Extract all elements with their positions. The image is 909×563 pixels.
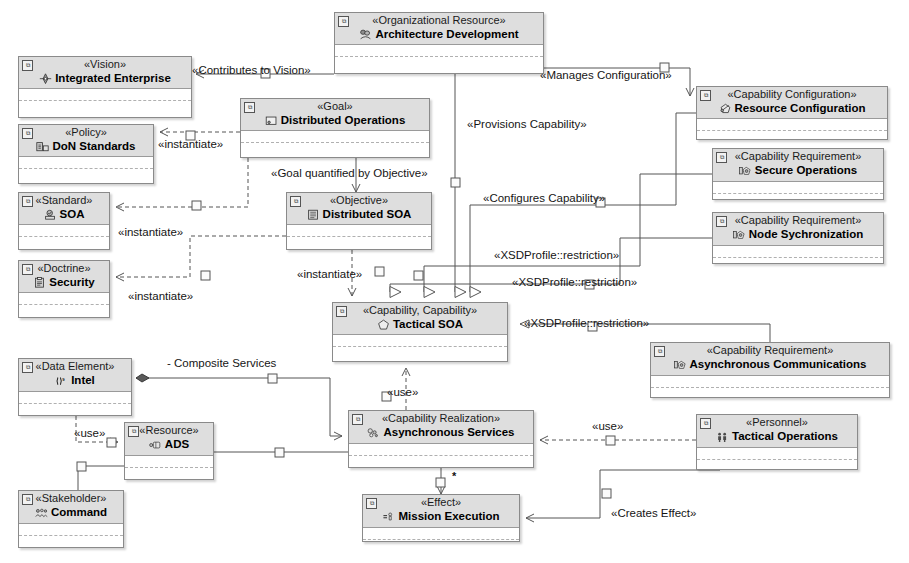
node-stereotype: «Capability, Capability» bbox=[337, 305, 503, 317]
node-name: Asynchronous Services bbox=[353, 426, 529, 440]
node-attributes-compartment bbox=[19, 89, 191, 101]
node-name-text: Asynchronous Services bbox=[383, 426, 514, 438]
uml-node-tactical[interactable]: ⧉«Capability, Capability»Tactical SOA bbox=[332, 302, 508, 362]
node-name-text: Tactical Operations bbox=[732, 430, 838, 442]
node-operations-compartment bbox=[697, 131, 887, 142]
node-header: «Capability, Capability»Tactical SOA bbox=[333, 303, 507, 335]
edge-label-l_use_intel: «use» bbox=[74, 428, 105, 440]
node-name: Secure Operations bbox=[717, 164, 879, 178]
edge-label-l_xsd2: «XSDProfile::restriction» bbox=[512, 277, 637, 289]
uml-node-async_svc[interactable]: ⧉«Capability Realization»Asynchronous Se… bbox=[348, 410, 534, 468]
node-name: DoN Standards bbox=[23, 140, 149, 153]
node-name-text: Security bbox=[49, 276, 94, 288]
node-name: Distributed Operations bbox=[245, 114, 425, 127]
edge-label-l_provisions: «Provisions Capability» bbox=[467, 119, 587, 131]
uml-node-ads[interactable]: ⧉«Resource»ADS bbox=[124, 422, 214, 480]
policy-icon bbox=[36, 141, 49, 153]
node-attributes-compartment bbox=[241, 131, 429, 143]
edge-label-l_contributes: «Contributes to Vision» bbox=[192, 65, 311, 77]
node-name-text: Command bbox=[51, 506, 107, 518]
node-name-text: Secure Operations bbox=[755, 164, 857, 176]
node-stereotype: «Standard» bbox=[23, 195, 105, 207]
node-stereotype: «Objective» bbox=[291, 195, 427, 207]
node-name: Resource Configuration bbox=[701, 102, 883, 115]
uml-node-tac_ops[interactable]: ⧉«Personnel»Tactical Operations bbox=[696, 414, 858, 470]
node-stereotype: «Resource» bbox=[129, 425, 209, 437]
capability-config-icon bbox=[719, 103, 732, 115]
doctrine-icon bbox=[33, 277, 46, 289]
node-stereotype: «Capability Configuration» bbox=[701, 89, 883, 101]
element-badge-icon: ⧉ bbox=[22, 60, 33, 71]
node-header: «Organizational Resource»Architecture De… bbox=[335, 13, 543, 45]
node-name: SOA bbox=[23, 208, 105, 221]
uml-node-standard[interactable]: ⧉«Standard»SOA bbox=[18, 192, 110, 250]
element-badge-icon: ⧉ bbox=[22, 264, 33, 275]
node-stereotype: «Policy» bbox=[23, 127, 149, 139]
node-attributes-compartment bbox=[19, 293, 109, 305]
node-attributes-compartment bbox=[125, 456, 213, 468]
vision-icon bbox=[39, 73, 52, 85]
node-name: Security bbox=[23, 276, 105, 289]
node-name: 9Intel bbox=[23, 374, 127, 388]
uml-node-goal[interactable]: ⧉«Goal»Distributed Operations bbox=[240, 98, 430, 158]
node-attributes-compartment bbox=[651, 376, 889, 388]
node-name-text: Mission Execution bbox=[399, 510, 500, 522]
node-header: «Policy»DoN Standards bbox=[19, 125, 153, 157]
uml-node-command[interactable]: ⧉«Stakeholder»Command bbox=[18, 490, 124, 548]
node-attributes-compartment bbox=[19, 157, 153, 169]
uml-node-doctrine[interactable]: ⧉«Doctrine»Security bbox=[18, 260, 110, 318]
node-operations-compartment bbox=[19, 404, 131, 415]
element-badge-icon: ⧉ bbox=[716, 152, 727, 163]
node-operations-compartment bbox=[697, 460, 857, 471]
node-name: Command bbox=[23, 506, 119, 520]
node-name: Tactical SOA bbox=[337, 318, 503, 331]
element-badge-icon: ⧉ bbox=[290, 196, 301, 207]
capability-requirement-icon bbox=[733, 230, 746, 242]
node-name-text: ADS bbox=[165, 438, 189, 450]
node-attributes-compartment bbox=[697, 448, 857, 460]
node-stereotype: «Personnel» bbox=[701, 417, 853, 429]
uml-node-res_cfg[interactable]: ⧉«Capability Configuration»Resource Conf… bbox=[696, 86, 888, 140]
node-attributes-compartment bbox=[19, 225, 109, 237]
goal-icon bbox=[265, 115, 278, 127]
node-operations-compartment bbox=[19, 305, 109, 316]
element-badge-icon: ⧉ bbox=[22, 128, 33, 139]
node-header: «Capability Requirement»Asynchronous Com… bbox=[651, 343, 889, 376]
element-badge-icon: ⧉ bbox=[336, 306, 347, 317]
node-stereotype: «Capability Requirement» bbox=[655, 345, 885, 357]
node-header: «Vision»Integrated Enterprise bbox=[19, 57, 191, 89]
uml-node-vision[interactable]: ⧉«Vision»Integrated Enterprise bbox=[18, 56, 192, 118]
node-header: «Capability Requirement»Node Sychronizat… bbox=[713, 213, 883, 246]
node-attributes-compartment bbox=[697, 119, 887, 131]
node-operations-compartment bbox=[333, 347, 507, 358]
node-attributes-compartment bbox=[363, 528, 519, 540]
uml-node-arch_dev[interactable]: ⧉«Organizational Resource»Architecture D… bbox=[334, 12, 544, 74]
node-name-text: Architecture Development bbox=[375, 28, 518, 40]
edge-label-l_xsd1: «XSDProfile::restriction» bbox=[494, 250, 619, 262]
capability-icon bbox=[377, 319, 390, 331]
uml-node-policy[interactable]: ⧉«Policy»DoN Standards bbox=[18, 124, 154, 184]
uml-node-node_sync[interactable]: ⧉«Capability Requirement»Node Sychroniza… bbox=[712, 212, 884, 264]
uml-node-intel[interactable]: ⧉«Data Element»9Intel bbox=[18, 358, 132, 416]
node-header: «Data Element»9Intel bbox=[19, 359, 131, 392]
element-badge-icon: ⧉ bbox=[22, 196, 33, 207]
node-operations-compartment bbox=[713, 194, 883, 205]
element-badge-icon: ⧉ bbox=[366, 498, 377, 509]
uml-node-async_comm[interactable]: ⧉«Capability Requirement»Asynchronous Co… bbox=[650, 342, 890, 398]
uml-node-objective[interactable]: ⧉«Objective»Distributed SOA bbox=[286, 192, 432, 250]
node-operations-compartment bbox=[335, 57, 543, 68]
effect-icon bbox=[383, 512, 396, 524]
node-stereotype: «Stakeholder» bbox=[23, 493, 119, 505]
node-operations-compartment bbox=[241, 143, 429, 154]
node-attributes-compartment bbox=[713, 182, 883, 194]
node-name-text: Tactical SOA bbox=[393, 318, 463, 330]
element-badge-icon: ⧉ bbox=[22, 494, 33, 505]
edge-label-l_use_pers: «use» bbox=[592, 421, 623, 433]
capability-requirement-icon bbox=[674, 360, 687, 372]
uml-node-sec_ops[interactable]: ⧉«Capability Requirement»Secure Operatio… bbox=[712, 148, 884, 200]
edge-label-l_goalquant: «Goal quantified by Objective» bbox=[271, 168, 428, 180]
node-stereotype: «Capability Requirement» bbox=[717, 151, 879, 163]
node-attributes-compartment bbox=[287, 225, 431, 237]
node-attributes-compartment bbox=[335, 45, 543, 57]
uml-node-mission[interactable]: ⧉«Effect»Mission Execution bbox=[362, 494, 520, 542]
